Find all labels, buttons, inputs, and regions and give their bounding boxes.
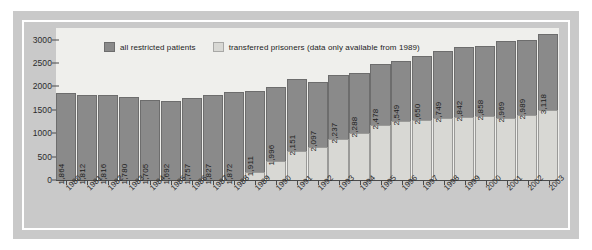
bar-column[interactable]: 2,478 (370, 64, 390, 180)
bar-segment-restricted-patients: 3,118 (538, 34, 558, 110)
bar-segment-restricted-patients: 2,749 (433, 51, 453, 118)
bar-segment-restricted-patients: 2,969 (496, 41, 516, 118)
bar-segment-restricted-patients: 1,827 (203, 95, 223, 180)
bar-value-label: 2,858 (476, 100, 485, 121)
bar-segment-transferred-prisoners (538, 110, 558, 180)
legend-label: all restricted patients (120, 43, 196, 52)
bar-column[interactable]: 2,989 (517, 40, 537, 180)
bar-column[interactable]: 1,996 (266, 87, 286, 180)
bar-column[interactable]: 2,969 (496, 41, 516, 180)
bar-segment-restricted-patients: 1,692 (161, 101, 181, 180)
bar-value-label: 2,989 (518, 98, 527, 119)
bar-segment-transferred-prisoners (517, 115, 537, 180)
bar-segment-restricted-patients: 2,650 (412, 56, 432, 120)
bar-column[interactable]: 3,118 (538, 34, 558, 180)
bar-segment-restricted-patients: 1,872 (224, 92, 244, 180)
y-axis-tick-label: 500 (38, 152, 52, 162)
y-axis-tick-label: 1000 (33, 128, 52, 138)
bar-segment-restricted-patients: 2,097 (308, 82, 328, 147)
bar-value-label: 2,478 (371, 108, 380, 129)
bar-column[interactable]: 2,858 (475, 46, 495, 180)
bar-segment-restricted-patients: 2,842 (454, 47, 474, 117)
y-axis-tick-label: 1500 (33, 105, 52, 115)
bar-column[interactable]: 1,864 (56, 93, 76, 180)
bar-segment-transferred-prisoners (391, 121, 411, 180)
bar-segment-transferred-prisoners (454, 117, 474, 180)
bar-column[interactable]: 2,749 (433, 51, 453, 180)
bar-segment-restricted-patients: 2,858 (475, 46, 495, 116)
y-axis-tick-label: 3000 (33, 35, 52, 45)
legend-entry[interactable]: all restricted patients (104, 42, 196, 52)
bar-segment-transferred-prisoners (412, 120, 432, 180)
y-axis-tick-label: 2500 (33, 58, 52, 68)
bar-column[interactable]: 1,911 (245, 91, 265, 180)
bar-column[interactable]: 2,237 (328, 75, 348, 180)
dark-grey-swatch (104, 42, 115, 52)
bar-segment-restricted-patients: 2,989 (517, 40, 537, 114)
bar-column[interactable]: 2,151 (287, 79, 307, 180)
bar-column[interactable]: 1,816 (98, 95, 118, 180)
bar-segment-restricted-patients: 1,996 (266, 87, 286, 162)
bar-value-label: 2,842 (455, 101, 464, 122)
bar-segment-restricted-patients: 1,780 (119, 97, 139, 180)
bar-column[interactable]: 1,827 (203, 95, 223, 180)
legend-label: transferred prisoners (data only availab… (229, 43, 420, 52)
bar-value-label: 2,749 (434, 102, 443, 123)
bar-column[interactable]: 1,757 (182, 98, 202, 180)
bar-column[interactable]: 2,549 (391, 61, 411, 180)
bar-value-label: 3,118 (539, 94, 548, 114)
bar-column[interactable]: 2,288 (349, 73, 369, 180)
bar-segment-restricted-patients: 2,237 (328, 75, 348, 138)
bar-segment-restricted-patients: 1,816 (98, 95, 118, 180)
bar-segment-restricted-patients: 1,757 (182, 98, 202, 180)
bar-column[interactable]: 2,097 (308, 82, 328, 180)
bar-segment-transferred-prisoners (370, 125, 390, 180)
bar-segment-transferred-prisoners (496, 118, 516, 180)
bar-value-label: 1,996 (267, 145, 276, 166)
bar-segment-restricted-patients: 2,549 (391, 61, 411, 121)
chart-figure: 050010001500200025003000 1,8641,8121,816… (0, 0, 592, 250)
bar-segment-restricted-patients: 1,812 (77, 95, 97, 180)
bar-column[interactable]: 1,692 (161, 101, 181, 180)
bar-column[interactable]: 1,780 (119, 97, 139, 180)
bar-segment-transferred-prisoners (433, 118, 453, 180)
bar-value-label: 2,288 (350, 117, 359, 138)
bar-column[interactable]: 2,842 (454, 47, 474, 180)
bar-value-label: 2,969 (497, 101, 506, 122)
bar-value-label: 2,097 (309, 131, 318, 152)
bar-segment-restricted-patients: 2,288 (349, 73, 369, 133)
bar-column[interactable]: 1,812 (77, 95, 97, 180)
y-axis-tick-labels: 050010001500200025003000 (22, 28, 52, 180)
bar-column[interactable]: 1,872 (224, 92, 244, 180)
bar-segment-transferred-prisoners (475, 116, 495, 180)
y-axis-tick-label: 2000 (33, 81, 52, 91)
bar-column[interactable]: 2,650 (412, 56, 432, 180)
bar-segment-restricted-patients: 1,705 (140, 100, 160, 180)
legend-entry[interactable]: transferred prisoners (data only availab… (213, 42, 420, 52)
bar-value-label: 1,911 (246, 155, 255, 175)
bar-segment-transferred-prisoners (328, 139, 348, 180)
bar-value-label: 2,650 (413, 104, 422, 125)
bar-segment-restricted-patients: 1,864 (56, 93, 76, 180)
bar-segment-restricted-patients: 2,478 (370, 64, 390, 125)
x-axis-tick-labels: 1980198119821983198419851986198719881989… (56, 186, 559, 220)
bar-segment-restricted-patients: 1,911 (245, 91, 265, 172)
bar-value-label: 2,237 (330, 122, 339, 143)
bar-column[interactable]: 1,705 (140, 100, 160, 180)
bar-value-label: 2,549 (392, 105, 401, 126)
bar-segment-transferred-prisoners (349, 133, 369, 180)
bar-value-label: 2,151 (288, 135, 297, 156)
bar-segment-restricted-patients: 2,151 (287, 79, 307, 151)
light-grey-swatch (213, 42, 224, 52)
chart-legend: all restricted patientstransferred priso… (104, 42, 420, 52)
